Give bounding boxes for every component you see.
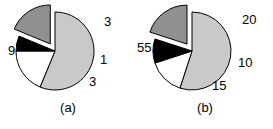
pie-value-label-b-right: 10 xyxy=(238,56,252,69)
pie-value-label-b-left: 55 xyxy=(137,41,151,54)
panel-caption-b: (b) xyxy=(137,101,273,115)
pie-value-label-a-lower-right: 3 xyxy=(89,75,96,88)
pie-value-label-b-upper-right: 20 xyxy=(242,13,256,26)
panel-caption-a: (a) xyxy=(0,101,136,115)
pie-value-label-a-upper-right: 3 xyxy=(104,15,111,28)
pie-chart-a xyxy=(0,0,136,100)
pie-value-label-a-left: 9 xyxy=(8,44,15,57)
pie-slice-b-dark-gray-exploded xyxy=(150,5,187,44)
chart-panel-a: 9 3 1 3 (a) xyxy=(0,0,136,129)
pie-value-label-a-right: 1 xyxy=(100,53,107,66)
chart-panel-b: 55 20 10 15 (b) xyxy=(137,0,273,129)
pie-chart-figure: 9 3 1 3 (a) 55 20 10 15 (b) xyxy=(0,0,273,129)
pie-value-label-b-lower-right: 15 xyxy=(212,79,226,92)
